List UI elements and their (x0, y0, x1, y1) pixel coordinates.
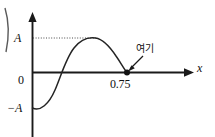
y-axis-arrowhead (28, 12, 36, 22)
annotation-pointer-line (131, 56, 143, 68)
annotation-label-here: 여기 (136, 44, 153, 54)
x-axis-label: x (197, 62, 202, 74)
y-axis-negative-amplitude-label: −A (7, 102, 22, 114)
left-edge-bracket-artifact (5, 8, 8, 52)
y-axis-amplitude-label: A (14, 32, 21, 44)
x-tick-label-075: 0.75 (110, 78, 130, 90)
annotation-pointer-arrowhead (128, 65, 135, 71)
origin-label: 0 (18, 74, 24, 86)
physics-wave-figure: A −A 0 x 0.75 여기 (0, 0, 215, 137)
x-axis-arrowhead (184, 68, 194, 76)
figure-canvas (0, 0, 215, 137)
